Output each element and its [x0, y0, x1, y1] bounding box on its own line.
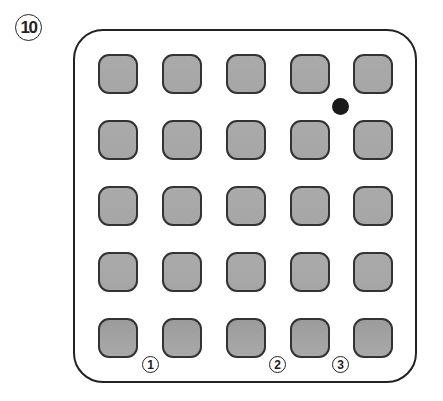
- grid-cell-r5-c5: [353, 318, 393, 358]
- grid-cell-r2-c2: [162, 120, 202, 160]
- grid-cell-r2-c1: [98, 120, 138, 160]
- grid-cell-r2-c5: [353, 120, 393, 160]
- grid-cell-r4-c5: [353, 252, 393, 292]
- grid-cell-r1-c1: [98, 54, 138, 94]
- grid-cell-r3-c3: [226, 186, 266, 226]
- grid-cell-r5-c1: [98, 318, 138, 358]
- grid-cell-r5-c2: [162, 318, 202, 358]
- grid-cell-r4-c4: [290, 252, 330, 292]
- grid-cell-r2-c3: [226, 120, 266, 160]
- marker-3: 3: [332, 356, 349, 373]
- grid-cell-r1-c2: [162, 54, 202, 94]
- marker-3-text: 3: [337, 358, 344, 372]
- figure-number-label: 10: [15, 14, 42, 41]
- grid-cell-r3-c1: [98, 186, 138, 226]
- figure-number-text: 10: [21, 18, 37, 38]
- grid-cell-r4-c3: [226, 252, 266, 292]
- grid-cell-r3-c4: [290, 186, 330, 226]
- grid-cell-r1-c3: [226, 54, 266, 94]
- grid-cell-r2-c4: [290, 120, 330, 160]
- grid-cell-r3-c2: [162, 186, 202, 226]
- marker-2-text: 2: [274, 358, 281, 372]
- marker-2: 2: [269, 356, 286, 373]
- black-dot: [332, 98, 349, 115]
- marker-1-text: 1: [147, 358, 154, 372]
- grid-cell-r1-c5: [353, 54, 393, 94]
- grid-cell-r4-c2: [162, 252, 202, 292]
- grid-cell-r5-c3: [226, 318, 266, 358]
- grid-cell-r4-c1: [98, 252, 138, 292]
- grid-cell-r5-c4: [290, 318, 330, 358]
- grid-cell-r3-c5: [353, 186, 393, 226]
- grid-cell-r1-c4: [290, 54, 330, 94]
- marker-1: 1: [142, 356, 159, 373]
